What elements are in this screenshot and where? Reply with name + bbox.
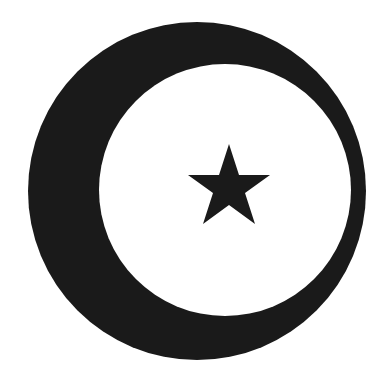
crescent-star-emblem	[0, 0, 373, 371]
crescent-icon	[28, 22, 366, 360]
